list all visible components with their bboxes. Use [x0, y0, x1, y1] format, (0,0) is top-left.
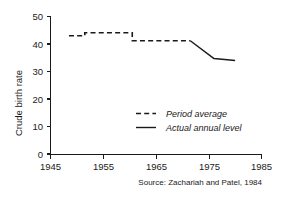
y-tick-label-20: 20: [32, 94, 43, 105]
y-tick-label-10: 10: [32, 121, 43, 132]
chart-figure: 50 40 30 20 10 0 Crude birth rate 1945 1…: [0, 0, 283, 199]
x-tick-label-1985: 1985: [251, 161, 272, 172]
data-series-group: [69, 33, 235, 61]
y-tick-label-50: 50: [32, 11, 43, 22]
y-tick-label-40: 40: [32, 39, 43, 50]
source-note: Source: Zachariah and Patel, 1984: [138, 178, 262, 187]
chart-legend: Period average Actual annual level: [136, 109, 243, 133]
series-period-average-line: [69, 33, 190, 41]
x-tick-label-1945: 1945: [40, 161, 61, 172]
y-axis-title: Crude birth rate: [13, 70, 24, 136]
crude-birth-rate-line-chart: 50 40 30 20 10 0 Crude birth rate 1945 1…: [0, 0, 283, 199]
y-axis: 50 40 30 20 10 0 Crude birth rate: [13, 11, 51, 160]
x-tick-label-1955: 1955: [93, 161, 114, 172]
x-tick-label-1975: 1975: [199, 161, 220, 172]
x-axis: 1945 1955 1965 1975 1985: [40, 155, 272, 173]
legend-label-actual-annual-level: Actual annual level: [165, 123, 243, 133]
y-tick-label-30: 30: [32, 66, 43, 77]
series-actual-annual-level-line: [190, 41, 235, 61]
y-tick-label-0: 0: [38, 149, 43, 160]
x-tick-label-1965: 1965: [146, 161, 167, 172]
legend-label-period-average: Period average: [166, 109, 227, 119]
